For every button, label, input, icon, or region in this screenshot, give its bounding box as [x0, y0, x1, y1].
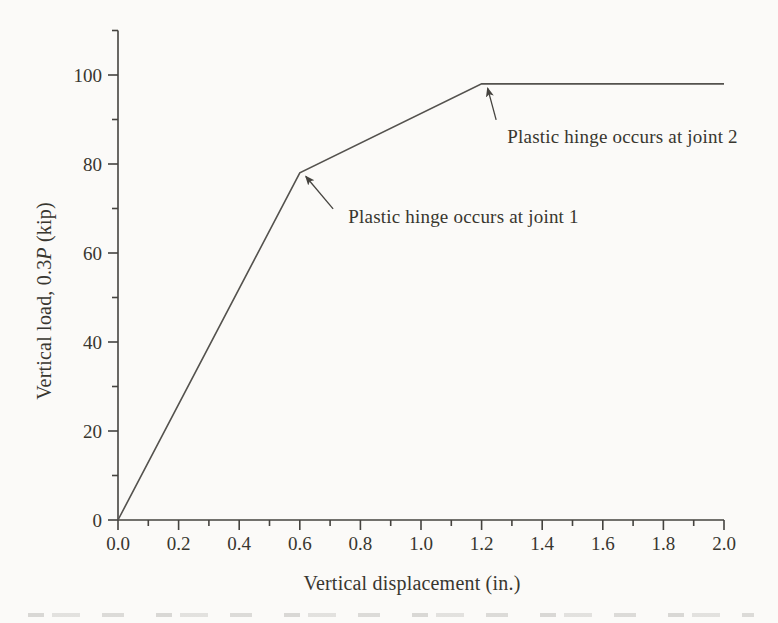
y-tick-label: 40	[83, 332, 102, 353]
load-displacement-chart: 0.00.20.40.60.81.01.21.41.61.82.00204060…	[0, 0, 778, 623]
y-axis-label-prefix: Vertical load, 0.3	[33, 260, 55, 400]
x-tick-label: 1.0	[409, 533, 433, 554]
annotation-label-2: Plastic hinge occurs at joint 2	[507, 126, 737, 147]
y-tick-label: 100	[74, 65, 103, 86]
y-axis-label-italic-p: P	[33, 247, 55, 259]
annotation-label-1: Plastic hinge occurs at joint 1	[348, 206, 578, 227]
x-axis-label: Vertical displacement (in.)	[304, 572, 521, 595]
y-axis-label-suffix: (kip)	[33, 202, 55, 247]
load-displacement-curve	[118, 84, 724, 520]
y-tick-label: 60	[83, 243, 102, 264]
x-tick-label: 1.2	[470, 533, 494, 554]
x-tick-label: 0.8	[349, 533, 373, 554]
annotation-arrow-1	[306, 176, 333, 208]
x-tick-label: 1.6	[591, 533, 615, 554]
y-axis-label: Vertical load, 0.3P (kip)	[33, 202, 56, 400]
scanned-figure-page: 0.00.20.40.60.81.01.21.41.61.82.00204060…	[0, 0, 778, 623]
x-tick-label: 2.0	[712, 533, 736, 554]
annotation-arrow-2	[488, 88, 496, 120]
x-tick-label: 0.4	[227, 533, 251, 554]
x-tick-label: 0.6	[288, 533, 312, 554]
y-tick-label: 80	[83, 154, 102, 175]
x-tick-label: 1.8	[652, 533, 676, 554]
y-tick-label: 20	[83, 421, 102, 442]
x-tick-label: 0.0	[106, 533, 130, 554]
y-tick-label: 0	[93, 510, 103, 531]
x-tick-label: 1.4	[530, 533, 554, 554]
x-tick-label: 0.2	[167, 533, 191, 554]
